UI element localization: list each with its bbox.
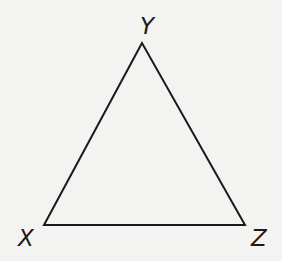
vertex-label-x: X	[17, 225, 35, 251]
triangle-xyz	[44, 43, 245, 225]
triangle-diagram: Y X Z	[0, 0, 282, 261]
vertex-label-y: Y	[140, 13, 156, 39]
triangle-svg: Y X Z	[0, 0, 282, 261]
vertex-label-z: Z	[250, 225, 268, 251]
